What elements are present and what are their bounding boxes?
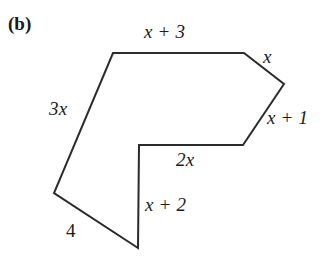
side-label-inner-vertical: x + 2 (145, 195, 186, 214)
side-label-left: 3x (49, 99, 67, 118)
geometry-figure: (b) x + 3 x x + 1 2x x + 2 4 3x (0, 0, 326, 264)
side-label-top: x + 3 (144, 22, 185, 41)
side-label-bottom-left: 4 (66, 221, 76, 240)
side-label-lower-right: x + 1 (267, 108, 308, 127)
part-label-b: (b) (8, 14, 31, 33)
polygon-shape (54, 53, 284, 248)
side-label-upper-right: x (263, 47, 272, 66)
side-label-inner-horizontal: 2x (176, 150, 194, 169)
